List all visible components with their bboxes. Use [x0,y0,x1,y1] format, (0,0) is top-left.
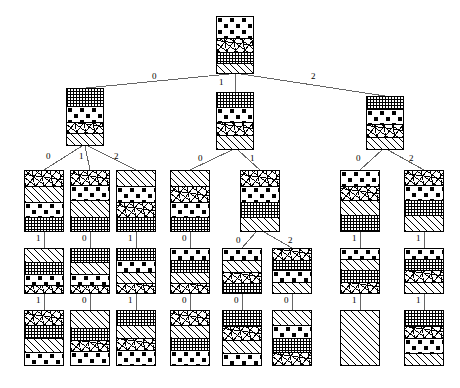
tree-node[interactable] [404,170,444,232]
tree-node[interactable] [216,92,254,150]
node-segment-scribble [273,352,311,366]
edge-label-root-2: 2 [311,72,316,81]
node-segment-dots [117,186,155,201]
node-segment-scribble [71,285,109,293]
node-segment-hatch [405,353,443,365]
node-segment-dots [171,249,209,260]
node-segment-hatch [117,272,155,283]
node-segment-scribble [217,122,253,136]
node-segment-dots [71,185,109,200]
node-segment-hatch [171,272,209,283]
edge-label-l2-1: 1 [128,234,133,243]
node-segment-dots [273,270,311,281]
node-segment-hatch [217,135,253,149]
edge-label-r-0: 0 [356,154,361,163]
node-segment-grid [405,200,443,215]
tree-node[interactable] [24,248,64,294]
node-segment-dots [367,109,403,124]
tree-node[interactable] [366,96,404,150]
edge-label-m1ba-0: 0 [284,296,289,305]
tree-node[interactable] [170,248,210,294]
node-segment-dots [217,17,253,38]
node-segment-hatch [117,171,155,186]
node-segment-grid [341,215,379,230]
edge-label-l1a-0: 0 [82,296,87,305]
edge-label-r2-1: 1 [416,234,421,243]
tree-node[interactable] [70,310,110,366]
node-segment-grid [241,202,279,217]
node-segment-grid [223,283,261,293]
tree-node[interactable] [24,310,64,366]
tree-node[interactable] [116,310,156,366]
node-segment-hatch [341,259,379,270]
node-segment-hatch [71,262,109,273]
node-segment-grid [25,262,63,273]
tree-node[interactable] [240,170,280,232]
node-segment-hatch [217,63,253,73]
tree-node[interactable] [116,170,156,232]
node-segment-scribble [223,272,261,283]
tree-node[interactable] [216,16,254,74]
tree-node[interactable] [222,310,262,366]
edge-label-m1aa-0: 0 [234,296,239,305]
tree-node[interactable] [340,170,380,232]
tree-node[interactable] [116,248,156,294]
tree-node[interactable] [272,248,312,294]
edge-label-r0-1: 1 [352,234,357,243]
tree-node[interactable] [404,310,444,366]
node-segment-dots [341,249,379,259]
tree-node[interactable] [170,170,210,232]
node-segment-grid [67,89,103,106]
node-segment-hatch [223,340,261,354]
edge-label-root-1: 1 [219,78,224,87]
tree-node[interactable] [272,310,312,366]
node-segment-dots [405,249,443,259]
node-segment-grid [71,217,109,231]
node-segment-dots [223,353,261,365]
node-segment-grid [367,97,403,109]
node-segment-hatch [405,282,443,293]
tree-diagram-canvas: 0 1 2 0 1 2 0 1 0 2 1 0 1 0 0 2 1 1 1 0 … [0,0,460,388]
edge-label-l2a-1: 1 [128,296,133,305]
node-segment-grid [405,259,443,270]
node-segment-hatch [241,217,279,231]
edge-m1-0 [242,232,256,248]
tree-node[interactable] [340,248,380,294]
edge-r-0 [360,150,382,170]
node-segment-dots [67,106,103,121]
node-segment-scribble [405,171,443,185]
node-segment-grid [171,260,209,271]
node-segment-scribble [67,122,103,134]
tree-node[interactable] [170,310,210,366]
edge-label-l-2: 2 [114,152,119,161]
edge-label-l0a-1: 1 [36,296,41,305]
edge-label-root-0: 0 [152,72,157,81]
node-segment-grid [25,217,63,231]
edge-label-l-1: 1 [79,152,84,161]
node-segment-scribble [117,283,155,293]
tree-node[interactable] [66,88,104,146]
node-segment-dots [405,185,443,200]
node-segment-dots [217,107,253,122]
tree-node[interactable] [340,310,380,366]
edge-label-r0a-1: 1 [352,296,357,305]
node-segment-scribble [367,124,403,137]
tree-node[interactable] [404,248,444,294]
tree-node[interactable] [222,248,262,294]
node-segment-hatch [25,249,63,262]
node-segment-hatch [71,311,109,328]
tree-node[interactable] [70,170,110,232]
edge-label-m-0: 0 [198,154,203,163]
node-segment-hatch [25,338,63,352]
node-segment-grid [117,217,155,231]
node-segment-dots [71,274,109,285]
node-segment-grid [273,338,311,352]
tree-node[interactable] [24,170,64,232]
node-segment-scribble [273,249,311,260]
node-segment-scribble [405,270,443,281]
node-segment-grid [171,338,209,350]
node-segment-hatch [341,311,379,365]
tree-node[interactable] [70,248,110,294]
node-segment-hatch [71,200,109,217]
node-segment-dots [71,351,109,365]
